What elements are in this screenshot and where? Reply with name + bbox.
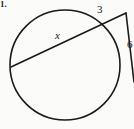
- geometry-figure: 1. x 3 6: [0, 0, 134, 129]
- secant-line: [11, 13, 126, 67]
- chord-length-label: x: [55, 30, 60, 41]
- figure-canvas: [0, 0, 134, 129]
- external-secant-length-label: 3: [97, 4, 103, 15]
- tangent-length-label: 6: [127, 39, 133, 50]
- circle-shape: [10, 10, 120, 120]
- problem-number: 1.: [0, 0, 7, 9]
